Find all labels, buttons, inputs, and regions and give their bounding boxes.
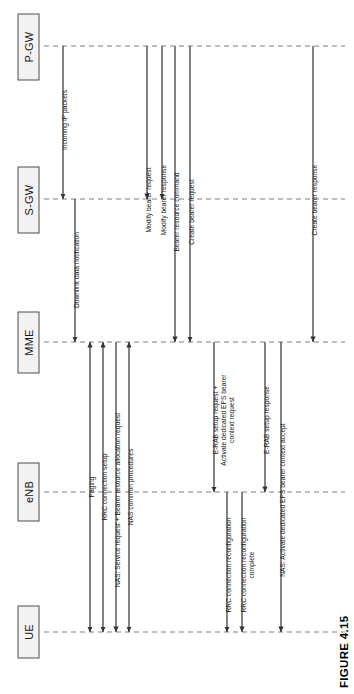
figure-container: Incoming IP packetsDownlink data notific…	[0, 0, 354, 694]
message-label-3: Paging	[88, 476, 96, 497]
message-label-7: Modify bearer request	[145, 167, 153, 232]
message-10: Create bearer request	[188, 46, 196, 342]
message-15: NAS: Activate dedicated EPS bearer conte…	[279, 342, 287, 632]
node-box-pgw: P-GW	[18, 14, 39, 80]
message-label-14: E-RAB setup response	[263, 386, 271, 454]
figure-caption: FIGURE 4.15	[338, 616, 350, 688]
message-label-11: E-RAB setup request +Activate dedicated …	[212, 374, 236, 466]
message-label-9: Bearer resource command	[173, 172, 180, 251]
lifelines-group	[44, 46, 345, 632]
node-box-mme: MME	[18, 312, 39, 373]
message-label-12: RRC connection reconfiguration	[225, 517, 233, 612]
message-5: NAS: Service request + Bearer resource a…	[114, 342, 122, 632]
message-label-15: NAS: Activate dedicated EPS bearer conte…	[279, 423, 287, 577]
message-label-4: RRC connection setup	[101, 453, 109, 520]
messages-group: Incoming IP packetsDownlink data notific…	[61, 46, 319, 632]
sequence-diagram: Incoming IP packetsDownlink data notific…	[0, 0, 354, 694]
node-boxes-group: P-GWS-GWMMEeNBUE	[18, 14, 39, 658]
message-3: Paging	[88, 342, 96, 632]
message-label-2: Downlink data notification	[73, 232, 80, 308]
node-label-mme: MME	[23, 329, 35, 355]
message-label-5: NAS: Service request + Bearer resource a…	[114, 413, 122, 587]
message-7: Modify bearer request	[145, 46, 153, 233]
message-8: Modify bearer response	[160, 46, 168, 235]
message-label-13: RRC connection reconfigurationcomplete	[240, 517, 256, 612]
node-label-enb: eNB	[23, 481, 35, 503]
message-4: RRC connection setup	[101, 342, 109, 632]
node-box-enb: eNB	[18, 463, 39, 521]
message-2: Downlink data notification	[73, 199, 80, 342]
message-label-6: NAS common procedures	[127, 448, 135, 525]
message-label-16: Create bearer response	[311, 164, 319, 235]
message-16: Create bearer response	[311, 46, 319, 342]
node-label-sgw: S-GW	[23, 184, 35, 215]
message-13: RRC connection reconfigurationcomplete	[240, 492, 256, 632]
message-6: NAS common procedures	[127, 342, 135, 632]
message-12: RRC connection reconfiguration	[225, 492, 233, 632]
message-label-1: Incoming IP packets	[61, 89, 69, 150]
node-label-ue: UE	[23, 624, 35, 640]
node-box-ue: UE	[18, 606, 39, 658]
node-box-sgw: S-GW	[18, 167, 39, 233]
message-9: Bearer resource command	[173, 46, 180, 342]
message-label-8: Modify bearer response	[160, 165, 168, 236]
node-label-pgw: P-GW	[23, 31, 35, 62]
message-label-10: Create bearer request	[188, 179, 196, 245]
message-11: E-RAB setup request +Activate dedicated …	[212, 342, 236, 492]
message-1: Incoming IP packets	[61, 46, 69, 199]
message-14: E-RAB setup response	[263, 342, 271, 492]
